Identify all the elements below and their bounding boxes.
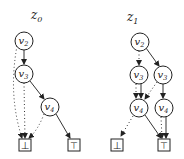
terminal-bottom: ⊥ — [19, 139, 31, 151]
svg-text:⊤: ⊤ — [160, 141, 168, 151]
edge-v3-v4-solid — [30, 81, 44, 99]
diagram-z1: z1 v2 v3 v3 v4 — [111, 10, 173, 151]
node-v4: v4 — [41, 98, 59, 116]
edge-v2-bot-dotted — [13, 46, 22, 138]
svg-text:⊥: ⊥ — [113, 140, 122, 151]
edge-v4a-bot-dotted — [121, 116, 133, 136]
node-v3-right: v3 — [154, 66, 172, 84]
node-v2: v2 — [131, 33, 149, 51]
node-v4-left: v4 — [130, 99, 148, 117]
edge-v4-bot-dotted — [29, 114, 44, 138]
edge-v4b-top-dotted — [161, 117, 162, 138]
node-v4-right: v4 — [155, 99, 173, 117]
edge-v4a-top-solid — [145, 115, 161, 138]
edges — [121, 48, 166, 138]
node-v3: v3 — [15, 65, 33, 83]
terminal-top: ⊤ — [68, 139, 80, 151]
bdd-diagrams: z0 v2 v3 v4 ⊥ ⊤ — [0, 0, 184, 159]
diagram-title-z0: z0 — [30, 8, 42, 24]
svg-text:⊤: ⊤ — [70, 141, 78, 151]
terminal-top: ⊤ — [158, 139, 170, 151]
node-v3-left: v3 — [130, 66, 148, 84]
edge-v2-v3b-solid — [146, 48, 159, 66]
edge-v4-top-solid — [56, 114, 70, 138]
edge-v3-bot-dotted — [24, 83, 25, 138]
node-v2: v2 — [15, 32, 33, 50]
edge-v3b-v4a-dotted — [145, 82, 157, 99]
diagram-z0: z0 v2 v3 v4 ⊥ ⊤ — [13, 8, 80, 151]
svg-text:⊥: ⊥ — [21, 140, 30, 151]
edges — [13, 46, 70, 138]
diagram-title-z1: z1 — [126, 10, 138, 26]
terminal-bottom: ⊥ — [111, 139, 123, 151]
